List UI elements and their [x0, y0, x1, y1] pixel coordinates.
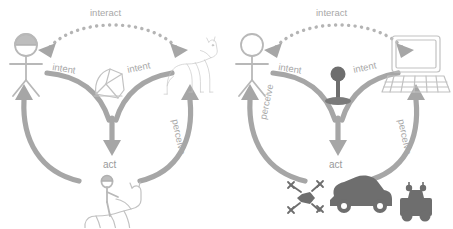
rider-stick-figure — [10, 34, 42, 96]
act-arrowhead — [103, 140, 121, 156]
intent-right-group-2: intent — [342, 59, 398, 120]
interact-arrowhead-right-2 — [396, 43, 414, 58]
intent-right-path — [116, 73, 172, 120]
act-arrowhead-2 — [329, 140, 347, 156]
laptop-icon — [382, 36, 450, 92]
helmet-icon — [15, 34, 37, 45]
act-label: act — [103, 159, 117, 170]
interact-label-2: interact — [316, 7, 348, 18]
diagram-canvas: interact intent intent act — [0, 0, 453, 228]
perceive-left-group-2: perceive — [241, 83, 305, 181]
act-label-2: act — [329, 159, 343, 170]
interact-arrowhead-right — [170, 43, 188, 58]
rider-helmet — [102, 176, 113, 182]
intent-right-label: intent — [126, 59, 151, 75]
rover-icon — [400, 182, 432, 222]
intent-left-group-2: intent — [273, 61, 335, 120]
intent-right-label-2: intent — [352, 59, 377, 75]
interact-dotted-path-2 — [272, 25, 406, 52]
joystick-base — [325, 97, 351, 105]
drone-icon — [288, 181, 323, 213]
horse-and-rider-icon — [81, 176, 141, 229]
interact-label: interact — [90, 7, 122, 18]
act-arrow-group: act — [103, 118, 121, 170]
perceive-right-label-2: perceive — [396, 118, 414, 155]
joystick-icon — [325, 67, 351, 106]
horse-riding-svg: interact intent intent act — [0, 0, 227, 228]
perceive-left-group — [15, 84, 79, 181]
act-arrow-group-2: act — [329, 118, 347, 170]
interact-arrowhead-left-2 — [264, 43, 282, 58]
head-circle-2 — [241, 34, 263, 56]
drone-car-rover-icon — [288, 176, 432, 222]
interact-arrowhead-left — [38, 43, 56, 58]
car-icon — [330, 176, 392, 213]
vehicle-teleoperation-panel: interact intent intent act perceive — [226, 0, 453, 228]
interact-arc-group: interact — [38, 7, 188, 58]
perceive-left-path — [24, 100, 79, 181]
horse-riding-panel: interact intent intent act — [0, 0, 227, 228]
intent-right-path-2 — [342, 73, 398, 120]
vehicle-teleoperation-svg: interact intent intent act perceive — [226, 0, 453, 228]
perceive-label: perceive — [170, 118, 188, 155]
intent-left-path-2 — [273, 73, 335, 120]
saddle-icon — [94, 69, 124, 98]
joystick-stem — [336, 78, 340, 100]
perceive-right-group-2: perceive — [366, 84, 425, 181]
interact-dotted-path — [46, 25, 180, 52]
perceive-right-group: perceive — [140, 84, 199, 181]
